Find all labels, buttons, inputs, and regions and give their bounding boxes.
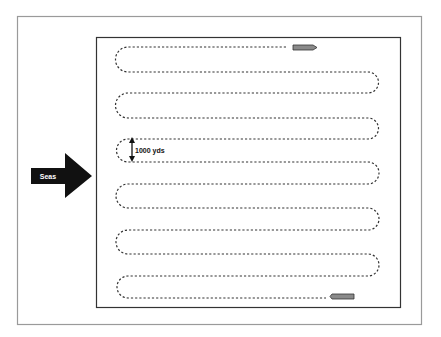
search-pattern-diagram: Seas 1000 yds: [0, 0, 441, 337]
search-area-box: [97, 38, 401, 308]
ship-start-icon: [293, 45, 317, 50]
seas-label: Seas: [40, 173, 56, 180]
ship-finish-icon: [330, 294, 354, 299]
spacing-label: 1000 yds: [135, 147, 165, 155]
